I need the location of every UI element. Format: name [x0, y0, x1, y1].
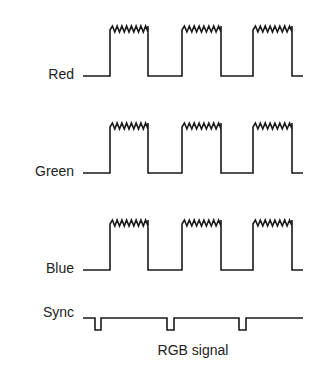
waveform-canvas [0, 0, 322, 376]
red-waveform [83, 26, 303, 76]
green-waveform [83, 123, 303, 173]
blue-waveform [83, 220, 303, 270]
sync-waveform [83, 318, 303, 330]
